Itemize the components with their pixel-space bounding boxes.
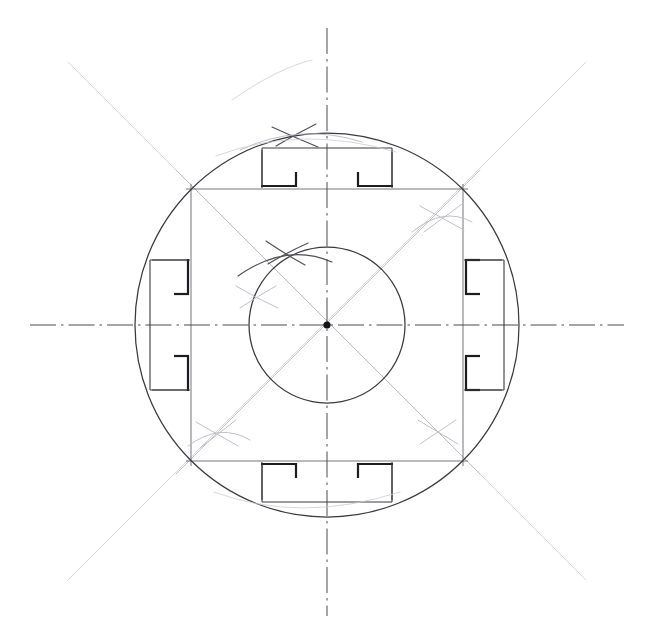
paper-background bbox=[0, 0, 646, 641]
drawing-svg bbox=[0, 0, 646, 641]
center-point-dot bbox=[323, 321, 330, 328]
technical-drawing-canvas: Circular Flange Plate Layout hand-drawn-… bbox=[0, 0, 646, 641]
